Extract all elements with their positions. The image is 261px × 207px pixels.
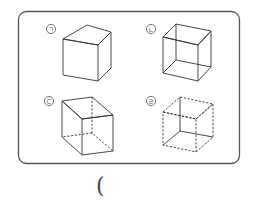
cube-d-icon [163,97,213,152]
label-c: ㄷ [44,96,53,105]
figure: ㄱ ㄴ ㄷ [0,0,261,207]
cube-b-icon [163,24,211,81]
svg-text:ㄹ: ㄹ [148,98,154,106]
cube-a-icon [63,25,111,81]
answer-blank-open-paren: ( [96,175,105,197]
cube-c-icon [62,97,113,155]
svg-text:ㄴ: ㄴ [148,26,154,34]
svg-text:ㄷ: ㄷ [46,98,52,106]
label-d: ㄹ [146,96,155,105]
label-a: ㄱ [46,24,55,33]
figure-frame [19,12,240,164]
label-b: ㄴ [146,24,155,33]
svg-text:ㄱ: ㄱ [48,26,54,34]
